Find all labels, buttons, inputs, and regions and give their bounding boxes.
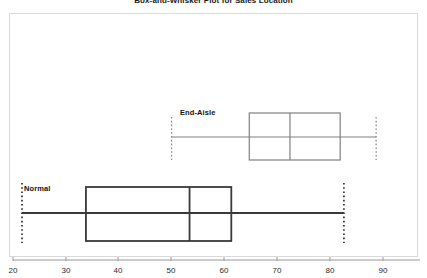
x-axis-tick-label: 30 [62, 266, 71, 275]
boxplot-normal [22, 183, 344, 243]
x-axis-tick-label: 40 [114, 266, 123, 275]
x-axis-tick-label: 90 [379, 266, 388, 275]
x-axis-tick-label: 20 [9, 266, 18, 275]
series-label-end-aisle: End-Aisle [180, 108, 216, 117]
series-label-normal: Normal [24, 184, 50, 193]
iqr-box [86, 187, 231, 241]
x-axis-layer [13, 257, 420, 261]
x-axis-tick-label: 70 [273, 266, 282, 275]
x-axis-tick-label: 50 [167, 266, 176, 275]
chart-canvas: Box-and-Whisker Plot for Sales Location … [0, 0, 427, 278]
boxplot-graphic [0, 0, 427, 278]
boxplot-end-aisle [172, 113, 377, 160]
boxplot-series-layer [22, 113, 376, 243]
x-axis-tick-label: 80 [326, 266, 335, 275]
x-axis-tick-label: 60 [220, 266, 229, 275]
